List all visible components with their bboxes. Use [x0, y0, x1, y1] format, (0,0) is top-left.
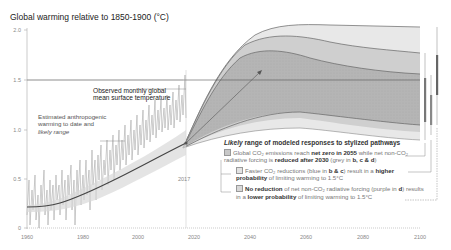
swatch-grey [224, 149, 231, 156]
x-tick-2060: 2060 [300, 234, 312, 240]
y-tick-1.5: 1.5 [13, 77, 21, 83]
anthropogenic-annotation: Estimated anthropogenic warming to date … [38, 113, 106, 135]
x-tick-2000: 2000 [132, 234, 144, 240]
y-tick-0: 0 [18, 225, 21, 231]
anthropogenic-annotation-line2: warming to date and [38, 120, 106, 127]
side-range-blue [430, 75, 432, 135]
observed-annotation-line1: Observed monthly global [93, 87, 170, 94]
x-tick-2020: 2020 [188, 234, 200, 240]
y-tick-2.0: 2.0 [13, 27, 21, 33]
y-axis [24, 28, 27, 229]
observed-annotation-line2: mean surface temperature [93, 94, 170, 101]
anthropogenic-annotation-line1: Estimated anthropogenic [38, 113, 106, 120]
x-tick-1960: 1960 [21, 234, 33, 240]
anthropogenic-annotation-line3: likely range [38, 128, 106, 135]
x-tick-2100: 2100 [414, 234, 426, 240]
y-tick-1.0: 1.0 [13, 127, 21, 133]
y-tick-0.5: 0.5 [13, 176, 21, 182]
legend-item-no-reduction: No reduction of net non-CO₂ radiative fo… [224, 185, 424, 200]
side-range-purple [436, 27, 438, 125]
x-tick-1980: 1980 [77, 234, 89, 240]
legend-item-faster-co2: Faster CO₂ reductions (blue in b & c) re… [224, 167, 424, 182]
legend: Likely range of modeled responses to sty… [224, 139, 424, 200]
x-tick-2080: 2080 [357, 234, 369, 240]
legend-item-net-zero: Global CO₂ emissions reach net zero in 2… [224, 149, 424, 164]
legend-header: Likely range of modeled responses to sty… [224, 139, 424, 147]
year-2017-label: 2017 [178, 176, 190, 183]
chart-title: Global warming relative to 1850-1900 (°C… [10, 12, 169, 22]
side-range-grey [424, 53, 426, 140]
swatch-purple [236, 185, 243, 192]
observed-annotation: Observed monthly global mean surface tem… [93, 87, 170, 102]
swatch-blue [236, 167, 243, 174]
x-tick-2040: 2040 [244, 234, 256, 240]
